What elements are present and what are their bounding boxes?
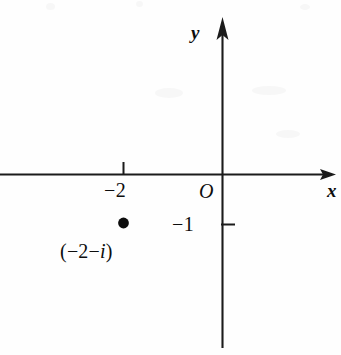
paren-close: ): [106, 240, 113, 262]
y-tick-label-minus-1: −1: [172, 214, 194, 234]
point-annotation-label: (−2−i): [60, 241, 113, 261]
minus-sign: −: [89, 240, 100, 262]
origin-label: O: [199, 181, 213, 201]
y-axis-label: y: [191, 23, 199, 42]
complex-plane-figure: y x O −2 −1 (−2−i): [0, 0, 341, 355]
paren-open: (: [60, 240, 67, 262]
x-axis-label: x: [327, 181, 337, 200]
data-point-marker: [118, 218, 129, 229]
x-tick-label-minus-2: −2: [104, 180, 126, 200]
axes-and-point-graphic: [0, 0, 341, 355]
real-part: −2: [67, 240, 89, 262]
